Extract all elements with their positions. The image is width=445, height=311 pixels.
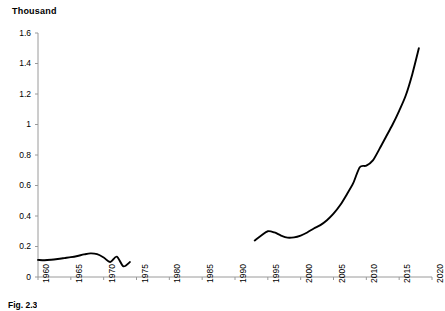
y-axis-tick-label: 1.4 [0,59,31,68]
x-axis-tick-label: 2015 [403,264,412,283]
axes-group [38,33,432,277]
y-axis-tick-label: 0 [0,273,31,282]
x-axis-tick-label: 1965 [75,264,84,283]
y-axis-tick-label: 1.2 [0,90,31,99]
y-axis-tick-label: 1 [0,120,31,129]
data-line-segment-2 [255,48,419,240]
x-axis-tick-label: 1995 [272,264,281,283]
plot-area: 00.20.40.60.811.21.41.6 1960196519701975… [0,0,445,311]
y-axis-tick-label: 0.8 [0,151,31,160]
x-axis-tick-label: 1990 [239,264,248,283]
figure-container: Thousand 00.20.40.60.811.21.41.6 1960196… [0,0,445,311]
x-axis-tick-label: 1975 [141,264,150,283]
x-axis-tick-label: 2000 [305,264,314,283]
y-axis-tick-label: 0.4 [0,212,31,221]
figure-caption: Fig. 2.3 [8,300,37,311]
y-axis-tick-label: 0.6 [0,181,31,190]
data-series-group [38,48,419,266]
x-axis-tick-label: 1980 [173,264,182,283]
x-axis-tick-label: 2020 [436,264,445,283]
x-axis-tick-label: 2010 [370,264,379,283]
y-axis-tick-label: 1.6 [0,29,31,38]
x-axis-tick-label: 1985 [206,264,215,283]
x-axis-tick-label: 1970 [108,264,117,283]
x-axis-tick-label: 2005 [338,264,347,283]
x-axis-tick-label: 1960 [42,264,51,283]
y-axis-tick-label: 0.2 [0,242,31,251]
